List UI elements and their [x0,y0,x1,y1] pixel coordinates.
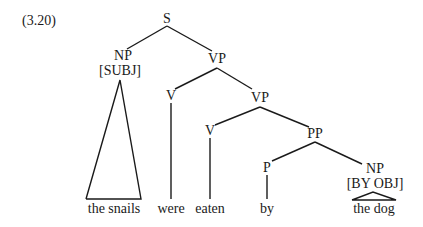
node-np-subj: NP [114,49,132,63]
word-were: were [157,202,184,216]
triangle-np-subj [86,80,141,199]
edge-s-vp [167,26,212,51]
example-number: (3.20) [22,14,56,28]
tree-edges [0,0,423,227]
node-vp2: VP [251,91,269,105]
node-s: S [163,12,171,26]
node-v-eaten: V [205,124,215,138]
node-np-byobj-feature: [BY OBJ] [347,177,404,191]
edge-pp-np [315,142,362,164]
word-eaten: eaten [195,202,225,216]
word-the-dog: the dog [353,202,395,216]
edge-vp-v [175,68,217,89]
edge-vp-vp [217,68,252,89]
word-by: by [260,202,274,216]
node-pp: PP [307,127,323,141]
node-np-subj-feature: [SUBJ] [99,64,141,78]
edge-pp-p [272,142,315,161]
edge-vp2-pp [260,107,309,127]
node-p: P [263,161,271,175]
edge-s-np [127,26,167,49]
edge-vp2-v [215,107,260,125]
node-vp1: VP [208,52,226,66]
node-np-byobj: NP [366,162,384,176]
node-v-were: V [166,89,176,103]
triangle-np-byobj [352,192,396,200]
word-the-snails: the snails [88,202,141,216]
